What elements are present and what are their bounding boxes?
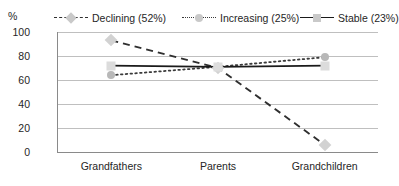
x-tick-label: Grandfathers [81, 160, 142, 172]
x-tick-label: Grandchildren [292, 160, 358, 172]
data-point-marker[interactable] [107, 71, 115, 79]
data-point-marker[interactable] [214, 62, 223, 71]
x-tick-label: Parents [200, 160, 236, 172]
data-point-marker[interactable] [320, 61, 329, 70]
series-line-diamond [111, 40, 324, 144]
data-point-marker[interactable] [107, 61, 116, 70]
data-point-marker[interactable] [321, 53, 329, 61]
